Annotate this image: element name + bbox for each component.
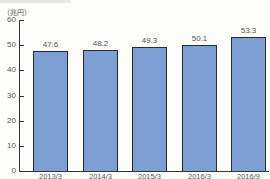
y-tick-label: 10 [2, 142, 16, 150]
bar [83, 50, 118, 171]
y-tick [19, 70, 24, 71]
x-tick-label: 2015/3 [128, 172, 172, 179]
y-tick [19, 121, 24, 122]
y-tick-label: 60 [2, 16, 16, 24]
bar-value-label: 47.6 [31, 40, 71, 49]
y-tick [19, 146, 24, 147]
x-tick-label: 2016/3 [178, 172, 222, 179]
y-tick [19, 96, 24, 97]
y-tick [19, 171, 24, 172]
bar-value-label: 50.1 [180, 34, 220, 43]
bar [182, 45, 217, 171]
bar [33, 51, 68, 171]
bar [132, 47, 167, 171]
bar-value-label: 48.2 [81, 39, 121, 48]
x-tick-label: 2016/9 [227, 172, 270, 179]
y-tick-label: 40 [2, 66, 16, 74]
x-tick-label: 2014/3 [79, 172, 123, 179]
cropped-title [0, 0, 70, 3]
y-tick [19, 45, 24, 46]
bar [231, 37, 266, 171]
x-tick-label: 2013/3 [29, 172, 73, 179]
bar-value-label: 49.3 [130, 36, 170, 45]
y-tick-label: 20 [2, 117, 16, 125]
y-tick-label: 50 [2, 41, 16, 49]
y-tick-label: 0 [2, 167, 16, 175]
y-tick-label: 30 [2, 92, 16, 100]
y-tick [19, 20, 24, 21]
bar-value-label: 53.3 [229, 26, 269, 35]
